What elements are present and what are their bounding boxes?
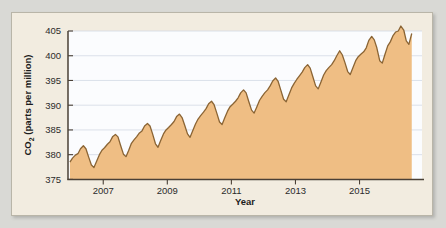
y-tick-label: 395: [45, 75, 61, 86]
chart-container: 375380385390395400405 200720092011201320…: [0, 0, 446, 228]
x-axis-title: Year: [235, 196, 255, 207]
x-tick-label: 2009: [157, 185, 178, 196]
y-tick-label: 390: [45, 100, 61, 111]
y-axis-title-suffix: (parts per million): [22, 54, 33, 137]
x-axis-tick-labels: 20072009201120132015: [93, 185, 370, 196]
y-tick-label: 405: [45, 25, 61, 36]
y-tick-label: 385: [45, 124, 61, 135]
y-axis-title-prefix: CO: [22, 141, 33, 155]
co2-area-chart: 375380385390395400405 200720092011201320…: [0, 0, 446, 228]
x-tick-label: 2011: [221, 185, 241, 196]
y-tick-label: 400: [45, 50, 61, 61]
y-tick-label: 380: [45, 149, 61, 160]
screenshot-root: 375380385390395400405 200720092011201320…: [0, 0, 446, 228]
x-tick-label: 2007: [93, 185, 114, 196]
x-tick-label: 2015: [349, 185, 370, 196]
y-axis-title: CO2 (parts per million): [22, 54, 35, 155]
y-axis-tick-labels: 375380385390395400405: [45, 25, 61, 184]
x-tick-label: 2013: [285, 185, 306, 196]
y-tick-label: 375: [45, 174, 61, 185]
